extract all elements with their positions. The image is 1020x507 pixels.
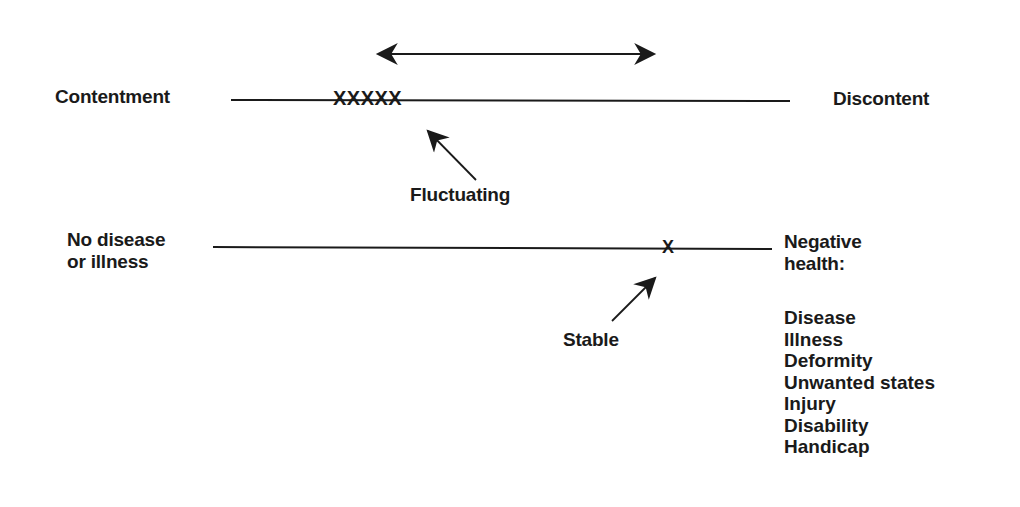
no-disease-label-line2: or illness [67,251,148,273]
stable-arrow-icon [612,278,655,321]
fluctuating-label: Fluctuating [410,184,510,206]
list-item: Unwanted states [784,372,935,394]
discontent-label: Discontent [833,88,929,110]
list-item: Handicap [784,436,935,458]
health-scale-line [213,247,772,249]
negative-health-label-line2: health: [784,253,845,275]
negative-health-label-line1: Negative [784,231,862,253]
fluctuating-marks: XXXXX [333,88,402,108]
stable-label: Stable [563,329,619,351]
contentment-label: Contentment [55,86,170,108]
stable-mark: X [662,237,675,257]
fluctuating-arrow-icon [428,131,476,180]
contentment-scale-line [231,100,790,101]
no-disease-label-line1: No disease [67,229,165,251]
negative-health-list: Disease Illness Deformity Unwanted state… [784,307,935,458]
list-item: Disability [784,415,935,437]
list-item: Deformity [784,350,935,372]
list-item: Illness [784,329,935,351]
list-item: Injury [784,393,935,415]
list-item: Disease [784,307,935,329]
